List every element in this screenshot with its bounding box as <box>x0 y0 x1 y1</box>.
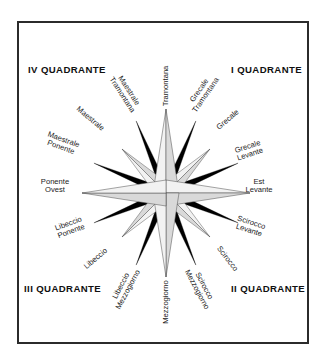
direction-label-line2: Levante <box>245 185 272 194</box>
quadrant-label-iv: IV QUADRANTE <box>28 64 106 75</box>
direction-label-line1: Tramontana <box>161 66 170 107</box>
quadrant-label-iii: III QUADRANTE <box>24 283 101 294</box>
quadrant-label-i: I QUADRANTE <box>231 64 302 75</box>
direction-label-line1: Mezzogiorno <box>161 280 170 323</box>
direction-label-line2: Ovest <box>45 185 65 194</box>
direction-label-tramontana: Tramontana <box>162 66 171 107</box>
quadrant-label-ii: II QUADRANTE <box>231 283 305 294</box>
direction-label-mezzogiorno: Mezzogiorno <box>162 280 171 323</box>
compass-rose-figure: IV QUADRANTE I QUADRANTE III QUADRANTE I… <box>0 0 327 363</box>
direction-label-est-levante: EstLevante <box>245 178 272 195</box>
direction-label-ponente-ovest: PonenteOvest <box>41 178 69 195</box>
